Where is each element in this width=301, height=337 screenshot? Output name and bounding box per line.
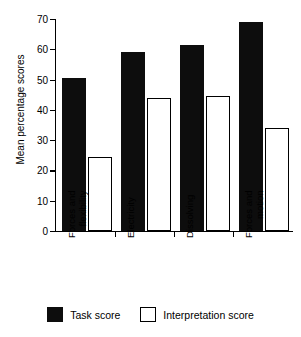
y-tick-label: 20	[37, 165, 48, 176]
legend-label: Task score	[70, 309, 120, 321]
legend-item: Task score	[47, 307, 120, 322]
x-category-label: Dissolving	[184, 195, 195, 238]
y-tick-label: 40	[37, 104, 48, 115]
x-tick-mark	[174, 232, 175, 237]
chart-legend: Task scoreInterpretation score	[0, 307, 301, 322]
bar-interpretation-score	[265, 128, 289, 231]
legend-swatch-task-score	[47, 307, 63, 322]
x-tick-mark	[115, 232, 116, 237]
y-tick-label: 30	[37, 135, 48, 146]
y-tick-label: 10	[37, 195, 48, 206]
y-tick-mark	[50, 231, 55, 232]
y-axis-title: Mean percentage scores	[15, 20, 26, 200]
bar-interpretation-score	[147, 98, 171, 231]
y-tick-mark	[50, 19, 55, 20]
y-axis-line	[55, 19, 56, 232]
bar-interpretation-score	[206, 96, 230, 231]
bar-interpretation-score	[88, 157, 112, 231]
y-tick-mark	[50, 49, 55, 50]
legend-swatch-interpretation-score	[140, 307, 156, 322]
y-tick-label: 70	[37, 14, 48, 25]
y-tick-mark	[50, 201, 55, 202]
x-category-label: Forces andflexibility	[66, 190, 88, 238]
y-tick-label: 50	[37, 74, 48, 85]
x-category-label: Forces andmotion	[243, 190, 265, 238]
y-tick-mark	[50, 80, 55, 81]
x-category-label: Electricity	[125, 197, 136, 238]
y-tick-mark	[50, 110, 55, 111]
y-tick-mark	[50, 170, 55, 171]
x-tick-mark	[233, 232, 234, 237]
y-tick-mark	[50, 140, 55, 141]
legend-label: Interpretation score	[163, 309, 253, 321]
bar-chart: Mean percentage scores 010203040506070 F…	[0, 0, 301, 337]
y-tick-label: 60	[37, 44, 48, 55]
legend-item: Interpretation score	[140, 307, 253, 322]
y-tick-label: 0	[42, 226, 48, 237]
